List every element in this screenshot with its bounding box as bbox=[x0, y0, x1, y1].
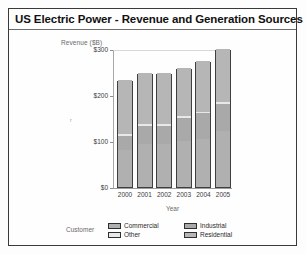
y-tick-mark bbox=[110, 142, 113, 143]
legend-label: Other bbox=[124, 231, 140, 238]
y-axis-title: Revenue ($B) bbox=[61, 39, 102, 46]
legend-label: Industrial bbox=[200, 222, 226, 229]
x-axis-title: Year bbox=[113, 205, 232, 212]
bar-segment-residential bbox=[138, 73, 152, 124]
legend: Customer CommercialIndustrialOtherReside… bbox=[66, 222, 246, 242]
bar-segment-commercial bbox=[196, 139, 210, 187]
bar-segment-industrial bbox=[216, 104, 230, 131]
bar-segment-residential bbox=[196, 61, 210, 112]
legend-swatch-other bbox=[108, 232, 121, 238]
bar-segment-other bbox=[138, 124, 152, 126]
bar-segment-commercial bbox=[118, 150, 132, 187]
bar-2002 bbox=[156, 74, 172, 188]
bar-segment-residential bbox=[177, 68, 191, 116]
y-tick-label: $0 bbox=[82, 184, 108, 191]
chart-screenshot: US Electric Power - Revenue and Generati… bbox=[0, 0, 306, 254]
bar-segment-other bbox=[118, 134, 132, 137]
bar-2001 bbox=[137, 74, 153, 188]
y-tick-mark bbox=[110, 96, 113, 97]
bar-segment-industrial bbox=[138, 126, 152, 144]
y-tick-mark bbox=[110, 188, 113, 189]
bar-segment-other bbox=[216, 102, 230, 104]
bar-segment-industrial bbox=[196, 113, 210, 139]
bar-segment-commercial bbox=[157, 144, 171, 187]
x-axis-line bbox=[113, 188, 232, 189]
legend-item-industrial[interactable]: Industrial bbox=[184, 222, 226, 229]
bar-segment-other bbox=[157, 124, 171, 126]
bar-2005 bbox=[215, 50, 231, 188]
bar-segment-commercial bbox=[177, 141, 191, 187]
bar-segment-industrial bbox=[177, 118, 191, 141]
bar-segment-industrial bbox=[157, 126, 171, 144]
legend-item-residential[interactable]: Residential bbox=[184, 231, 232, 238]
legend-swatch-residential bbox=[184, 232, 197, 238]
bar-2004 bbox=[195, 62, 211, 189]
legend-item-other[interactable]: Other bbox=[108, 231, 140, 238]
y-tick-label: $200 bbox=[82, 92, 108, 99]
bar-segment-commercial bbox=[138, 144, 152, 187]
x-tick-label-2005: 2005 bbox=[211, 191, 235, 198]
stray-artifact: r bbox=[70, 117, 72, 123]
bar-segment-residential bbox=[157, 73, 171, 124]
y-tick-mark bbox=[110, 50, 113, 51]
legend-swatch-commercial bbox=[108, 223, 121, 229]
bar-segment-industrial bbox=[118, 136, 132, 150]
bar-segment-commercial bbox=[216, 131, 230, 187]
legend-label: Commercial bbox=[124, 222, 159, 229]
chart-title-bar: US Electric Power - Revenue and Generati… bbox=[9, 9, 296, 30]
bar-2000 bbox=[117, 81, 133, 188]
y-tick-label: $100 bbox=[82, 138, 108, 145]
legend-title: Customer bbox=[66, 226, 94, 233]
bar-segment-residential bbox=[216, 49, 230, 102]
legend-swatch-industrial bbox=[184, 223, 197, 229]
bar-2003 bbox=[176, 69, 192, 188]
bar-segment-other bbox=[196, 112, 210, 114]
legend-label: Residential bbox=[200, 231, 232, 238]
y-tick-label: $300 bbox=[82, 46, 108, 53]
legend-item-commercial[interactable]: Commercial bbox=[108, 222, 159, 229]
bar-segment-other bbox=[177, 116, 191, 118]
bar-segment-residential bbox=[118, 80, 132, 134]
page-title: US Electric Power - Revenue and Generati… bbox=[9, 13, 303, 25]
